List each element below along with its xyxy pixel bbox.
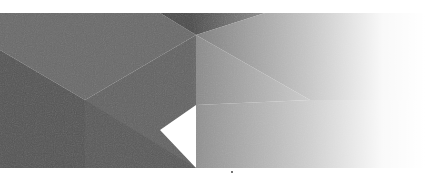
marker-dot xyxy=(231,171,233,173)
abstract-geometric-banner xyxy=(0,0,425,178)
geometric-pattern-graphic xyxy=(0,0,425,178)
right-fade-overlay xyxy=(0,13,425,168)
